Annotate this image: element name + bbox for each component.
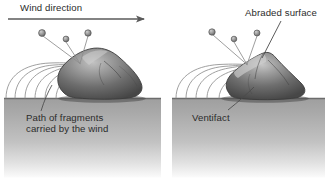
right-rock-group	[221, 52, 309, 102]
abraded-surface-leader	[262, 21, 281, 58]
left-sand-grains	[39, 30, 92, 42]
path-of-fragments-label: Path of fragments carried by the wind	[26, 112, 108, 134]
sand-grain	[85, 30, 91, 36]
sand-grain	[209, 29, 215, 35]
sand-grain	[254, 30, 260, 36]
path-of-fragments-line-1: Path of fragments	[26, 112, 103, 123]
wind-direction-label: Wind direction	[20, 2, 82, 13]
right-panel	[172, 21, 325, 178]
sand-grain	[231, 36, 237, 42]
ventifact-diagram: Wind direction Abraded surface Path of f…	[0, 0, 329, 190]
left-rock-group	[58, 48, 146, 103]
path-of-fragments-line-2: carried by the wind	[26, 123, 108, 134]
sand-grain	[39, 30, 46, 37]
sand-grain	[63, 36, 69, 42]
right-sand-grains	[209, 29, 260, 42]
left-panel	[4, 30, 161, 178]
ventifact-label: Ventifact	[192, 112, 230, 123]
abraded-surface-label: Abraded surface	[245, 7, 317, 18]
diagram-graphics	[0, 0, 329, 190]
left-ground	[4, 99, 161, 178]
right-ground	[172, 99, 325, 178]
